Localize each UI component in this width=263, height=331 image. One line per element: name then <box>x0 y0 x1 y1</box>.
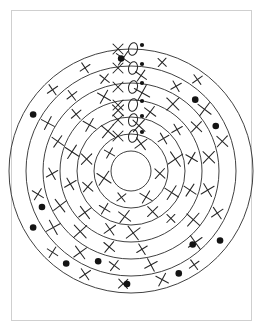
core-circle <box>111 151 151 191</box>
x-mark <box>74 225 87 238</box>
dot-marker <box>212 123 219 130</box>
x-mark <box>104 242 115 253</box>
x-mark <box>186 152 197 163</box>
annotation-dot <box>140 130 144 134</box>
x-mark <box>137 244 147 254</box>
x-mark <box>140 191 152 203</box>
x-mark <box>99 203 110 214</box>
dot-marker <box>95 258 102 265</box>
x-mark <box>47 85 57 95</box>
x-o-dot-entry <box>113 61 144 76</box>
x-mark <box>32 189 43 200</box>
x-mark <box>134 85 149 100</box>
x-mark <box>83 119 96 132</box>
x-mark <box>155 169 165 179</box>
dot-marker <box>124 281 131 288</box>
x-mark <box>198 103 211 116</box>
dot-marker <box>63 260 70 267</box>
x-mark <box>187 213 200 226</box>
x-mark <box>184 184 196 196</box>
x-mark <box>167 214 175 222</box>
x-mark <box>126 226 140 240</box>
x-mark <box>65 178 76 189</box>
ring-group <box>9 49 253 293</box>
rings-canvas <box>0 0 263 331</box>
x-mark <box>158 133 169 144</box>
x-mark <box>83 182 93 192</box>
o-mark <box>127 129 139 144</box>
x-mark <box>148 207 158 217</box>
x-mark <box>193 75 203 85</box>
dot-marker <box>189 241 196 248</box>
x-mark <box>113 105 124 116</box>
annotation-dot <box>140 99 144 103</box>
x-mark <box>104 148 114 158</box>
x-mark <box>46 168 57 179</box>
x-mark <box>189 260 199 270</box>
annotation-dot <box>140 114 144 118</box>
x-mark <box>145 106 156 117</box>
x-mark <box>117 193 126 202</box>
x-mark <box>80 269 91 280</box>
x-mark <box>212 207 223 218</box>
x-mark <box>67 90 77 100</box>
x-mark <box>172 124 182 134</box>
x-mark <box>168 152 182 166</box>
x-mark <box>41 117 54 130</box>
dot-marker <box>39 204 46 211</box>
x-o-dot-column-layer <box>113 42 144 144</box>
x-mark <box>158 58 166 66</box>
dot-marker <box>175 270 182 277</box>
dot-marker <box>192 96 199 103</box>
x-mark <box>217 136 228 147</box>
x-mark <box>156 273 169 286</box>
x-mark <box>54 199 67 212</box>
x-mark <box>136 70 147 81</box>
x-mark <box>104 224 115 235</box>
x-mark <box>98 90 111 103</box>
x-mark <box>79 206 91 218</box>
concentric-rings-figure <box>0 0 263 331</box>
x-mark <box>46 220 60 234</box>
page-root <box>0 0 263 331</box>
x-mark <box>145 259 157 271</box>
x-o-dot-entry <box>113 80 144 95</box>
o-mark <box>127 80 139 95</box>
x-mark <box>165 186 179 200</box>
x-mark <box>119 211 131 223</box>
x-mark <box>80 63 90 73</box>
annotation-dot <box>140 62 144 66</box>
dot-marker <box>30 111 37 118</box>
x-mark <box>97 171 111 185</box>
x-mark <box>74 246 87 259</box>
x-mark <box>167 98 179 110</box>
x-mark <box>109 260 119 270</box>
x-mark <box>203 151 215 163</box>
x-mark <box>201 184 214 197</box>
x-mark <box>52 136 63 147</box>
x-mark <box>65 145 78 158</box>
dot-marker <box>217 237 224 244</box>
annotation-dot <box>140 81 144 85</box>
x-mark <box>191 122 201 132</box>
annotation-dot <box>140 43 144 47</box>
dot-marker <box>30 224 37 231</box>
x-mark <box>81 154 91 164</box>
dot-marker <box>118 55 125 62</box>
x-mark <box>171 81 181 91</box>
x-mark <box>47 247 57 257</box>
x-mark <box>71 109 81 119</box>
x-mark <box>100 74 109 83</box>
